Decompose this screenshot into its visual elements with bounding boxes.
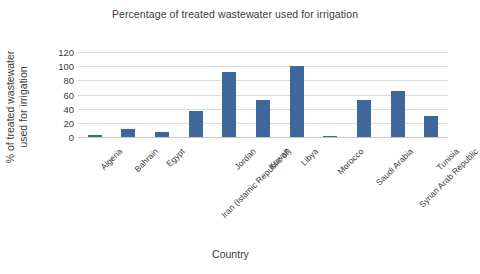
y-axis-tick-label: 80 <box>63 75 74 86</box>
bar-slot <box>78 52 112 137</box>
x-tick-slot: Algeria <box>78 139 112 239</box>
y-axis-tick-label: 40 <box>63 103 74 114</box>
bar[interactable] <box>290 66 304 137</box>
bar-slot <box>381 52 415 137</box>
bar[interactable] <box>391 91 405 137</box>
x-tick-slot: Egypt <box>145 139 179 239</box>
x-tick-slot: Saudi Arabia <box>347 139 381 239</box>
x-tick-slot: Libya <box>280 139 314 239</box>
y-axis-tick-label: 120 <box>58 47 74 58</box>
bar-series <box>78 52 448 137</box>
x-tick-slot: Morocco <box>313 139 347 239</box>
bar[interactable] <box>155 132 169 137</box>
bar-slot <box>246 52 280 137</box>
x-axis-title: Country <box>0 248 461 261</box>
bar[interactable] <box>357 100 371 137</box>
x-tick-slot: Iran (Islamic Republic of) <box>179 139 213 239</box>
y-axis-tick-label: 60 <box>63 89 74 100</box>
bar[interactable] <box>189 111 203 137</box>
bar-slot <box>179 52 213 137</box>
y-axis-tick-label: 0 <box>69 132 74 143</box>
x-tick-slot: Kuwait <box>246 139 280 239</box>
bar-slot <box>213 52 247 137</box>
bar-slot <box>347 52 381 137</box>
y-axis-title-container: % of treated wastewater used for irrigat… <box>0 34 34 154</box>
x-tick-slot: Jordan <box>213 139 247 239</box>
bar[interactable] <box>323 136 337 137</box>
bar-slot <box>414 52 448 137</box>
chart-title: Percentage of treated wastewater used fo… <box>70 8 400 21</box>
axis-baseline <box>78 137 448 138</box>
y-axis-title: % of treated wastewater used for irrigat… <box>4 47 30 167</box>
plot-area <box>78 52 448 138</box>
x-tick-slot: Bahrain <box>112 139 146 239</box>
bar-slot <box>145 52 179 137</box>
x-tick-slot: Tunisia <box>414 139 448 239</box>
y-axis-tick-label: 100 <box>58 61 74 72</box>
y-axis-tick-label: 20 <box>63 117 74 128</box>
x-axis-tick-labels: AlgeriaBahrainEgyptIran (Islamic Republi… <box>78 139 448 239</box>
bar[interactable] <box>424 116 438 137</box>
bar[interactable] <box>88 135 102 137</box>
bar[interactable] <box>256 100 270 137</box>
x-tick-slot: Syrian Arab Republic <box>381 139 415 239</box>
bar[interactable] <box>222 72 236 137</box>
bar-slot <box>112 52 146 137</box>
bar-slot <box>280 52 314 137</box>
bar-slot <box>313 52 347 137</box>
y-axis-tick-labels: 020406080100120 <box>44 46 74 144</box>
bar[interactable] <box>121 129 135 138</box>
